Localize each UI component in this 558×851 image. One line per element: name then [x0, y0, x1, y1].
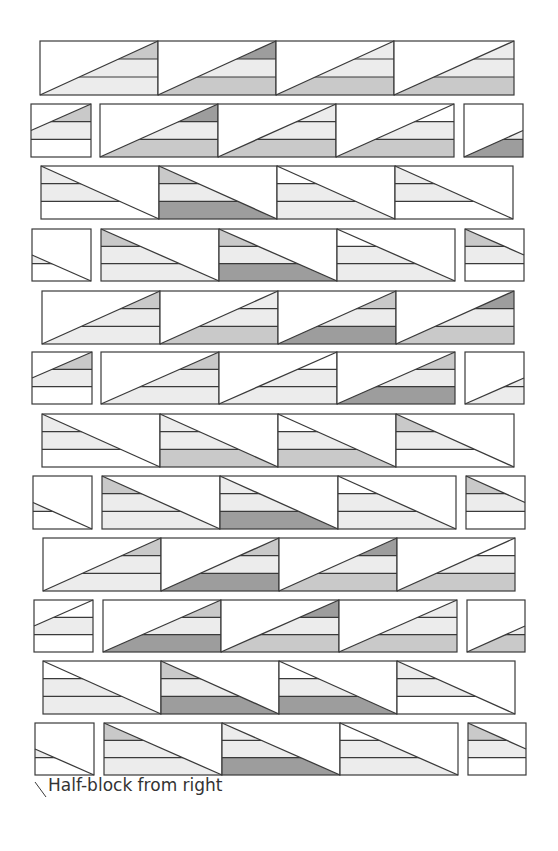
half-block-caption: Half-block from right: [48, 775, 223, 795]
leader-line: [0, 0, 558, 851]
